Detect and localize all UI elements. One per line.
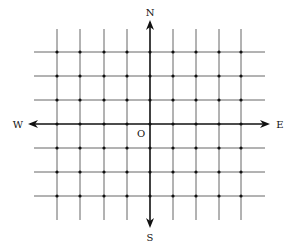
grid-dot bbox=[171, 146, 174, 149]
grid-dot bbox=[102, 74, 105, 77]
grid-dot bbox=[102, 170, 105, 173]
grid-dot bbox=[125, 74, 128, 77]
grid-dot bbox=[125, 50, 128, 53]
grid-dot bbox=[125, 170, 128, 173]
grid-dot bbox=[55, 50, 58, 53]
grid-dot bbox=[217, 50, 220, 53]
grid-dot bbox=[194, 50, 197, 53]
grid-dot bbox=[102, 194, 105, 197]
grid-dot bbox=[78, 74, 81, 77]
grid-dot bbox=[78, 98, 81, 101]
grid-dot bbox=[194, 194, 197, 197]
grid-dot bbox=[171, 98, 174, 101]
grid-dot bbox=[125, 146, 128, 149]
grid-dot bbox=[55, 98, 58, 101]
grid-dot bbox=[194, 170, 197, 173]
grid-dot bbox=[217, 146, 220, 149]
grid-dot bbox=[78, 50, 81, 53]
grid-dot bbox=[102, 146, 105, 149]
grid-dot bbox=[78, 146, 81, 149]
grid-dot bbox=[217, 74, 220, 77]
grid-dot bbox=[239, 50, 242, 53]
grid-dot bbox=[171, 194, 174, 197]
grid-dot bbox=[239, 146, 242, 149]
grid-dot bbox=[55, 170, 58, 173]
compass-grid-diagram: N S E W O bbox=[0, 0, 288, 249]
grid-dot bbox=[217, 194, 220, 197]
south-label: S bbox=[147, 232, 154, 243]
grid-dot bbox=[194, 74, 197, 77]
grid-dot bbox=[171, 170, 174, 173]
grid-dot bbox=[171, 74, 174, 77]
north-label: N bbox=[146, 7, 155, 18]
grid-dot bbox=[194, 146, 197, 149]
grid-dot bbox=[78, 170, 81, 173]
grid-dot bbox=[194, 98, 197, 101]
grid-dot bbox=[102, 50, 105, 53]
grid-dot bbox=[239, 170, 242, 173]
origin-label: O bbox=[137, 128, 145, 139]
grid-dot bbox=[171, 50, 174, 53]
grid-dot bbox=[125, 194, 128, 197]
west-label: W bbox=[13, 119, 24, 130]
grid-dot bbox=[125, 98, 128, 101]
grid-dot bbox=[239, 98, 242, 101]
grid-dot bbox=[217, 98, 220, 101]
grid-dot bbox=[55, 74, 58, 77]
grid-dot bbox=[55, 194, 58, 197]
east-label: E bbox=[276, 119, 283, 130]
grid-dot bbox=[102, 98, 105, 101]
grid-dot bbox=[55, 146, 58, 149]
grid-dot bbox=[239, 74, 242, 77]
grid-dot bbox=[217, 170, 220, 173]
grid-dot bbox=[78, 194, 81, 197]
grid-dot bbox=[239, 194, 242, 197]
